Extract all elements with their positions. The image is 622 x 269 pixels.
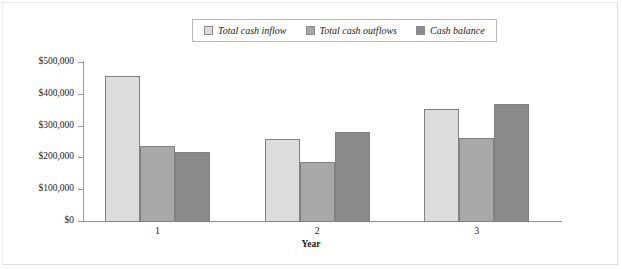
y-tick-label: $200,000	[14, 152, 74, 162]
legend-swatch-icon	[204, 26, 213, 35]
bar	[175, 152, 210, 222]
legend-item: Total cash outflows	[306, 26, 397, 36]
bar	[335, 132, 370, 222]
bar	[300, 162, 335, 222]
y-tick-label: $400,000	[14, 89, 74, 99]
legend-item-label: Total cash inflow	[218, 26, 287, 36]
legend-swatch-icon	[306, 26, 315, 35]
x-tick-label: 2	[297, 226, 337, 236]
legend-item: Total cash inflow	[204, 26, 287, 36]
x-tick-label: 1	[138, 226, 178, 236]
bar	[424, 109, 459, 222]
y-tick-label: $500,000	[14, 57, 74, 67]
bar	[265, 139, 300, 222]
legend-swatch-icon	[416, 26, 425, 35]
legend-item: Cash balance	[416, 26, 485, 36]
y-tick-label: $300,000	[14, 121, 74, 131]
y-tick-label: $0	[14, 216, 74, 226]
bar	[494, 104, 529, 222]
legend-item-label: Cash balance	[430, 26, 485, 36]
x-axis-title: Year	[0, 240, 622, 250]
x-tick-label: 3	[457, 226, 497, 236]
legend-item-label: Total cash outflows	[320, 26, 397, 36]
y-tick-label: $100,000	[14, 184, 74, 194]
chart-legend: Total cash inflowTotal cash outflowsCash…	[192, 19, 497, 42]
bar	[459, 138, 494, 222]
plot-area	[83, 62, 562, 222]
bar	[105, 76, 140, 222]
bar	[140, 146, 175, 222]
cash-flow-bar-chart: Total cash inflowTotal cash outflowsCash…	[0, 0, 622, 269]
